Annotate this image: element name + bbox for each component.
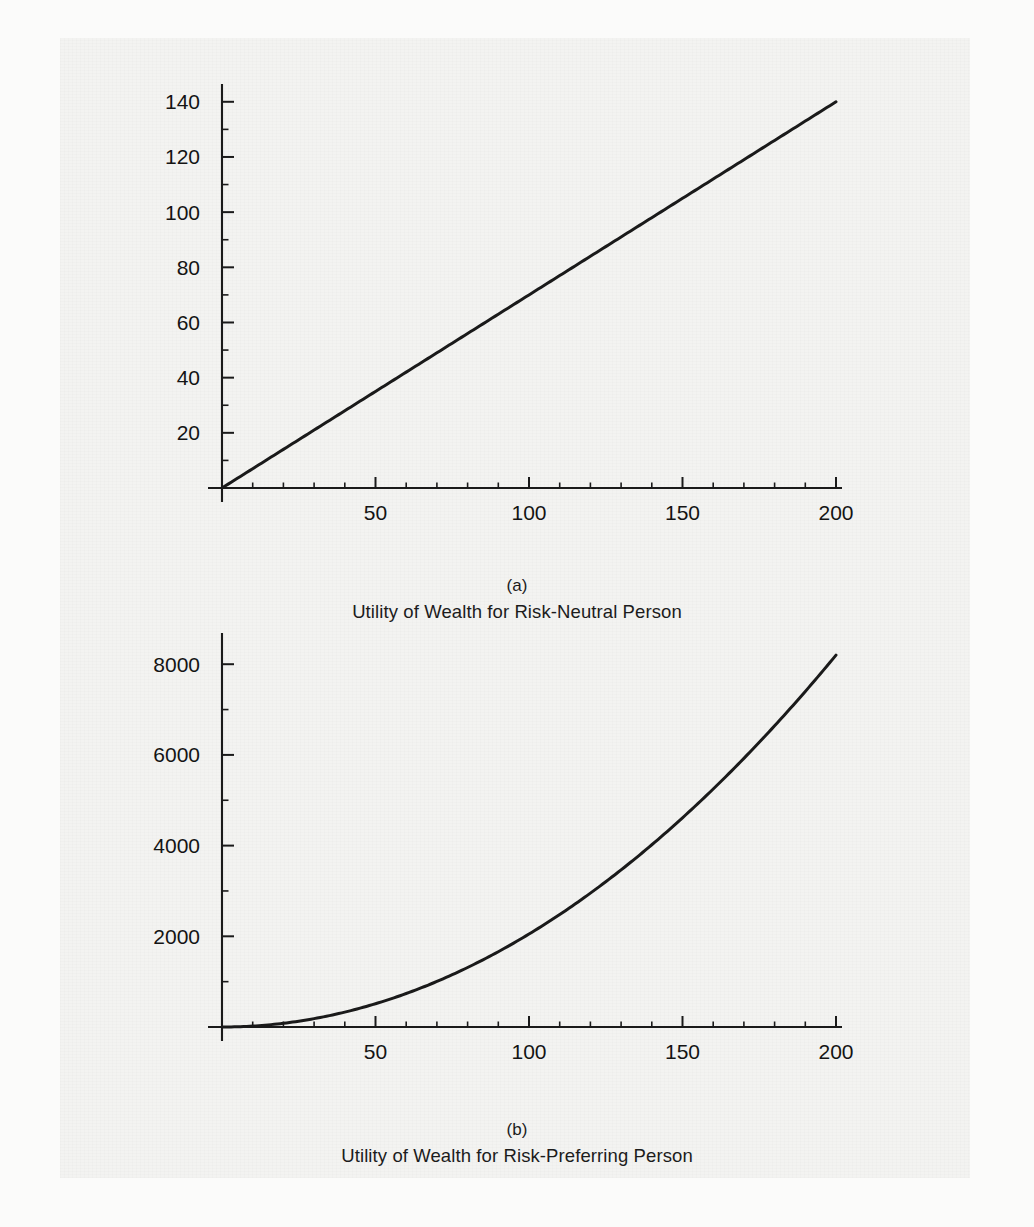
figure-panel-a: 5010015020020406080100120140 (a) Utility… — [0, 0, 1034, 625]
y-axis-tick-label: 6000 — [153, 743, 200, 766]
y-axis-tick-label: 140 — [165, 90, 200, 113]
figure-caption-b: (b) Utility of Wealth for Risk-Preferrin… — [0, 1118, 1034, 1169]
x-axis-tick-label: 50 — [364, 1040, 387, 1063]
x-axis-tick-label: 100 — [511, 1040, 546, 1063]
y-axis-tick-label: 100 — [165, 201, 200, 224]
figure-panel-b: 501001502002000400060008000 (b) Utility … — [0, 600, 1034, 1169]
y-axis-tick-label: 120 — [165, 145, 200, 168]
x-axis-tick-label: 50 — [364, 501, 387, 524]
panel-letter-b: (b) — [0, 1118, 1034, 1143]
x-axis-tick-label: 200 — [818, 501, 853, 524]
y-axis-tick-label: 40 — [177, 366, 200, 389]
y-axis-tick-label: 8000 — [153, 653, 200, 676]
data-series-line — [222, 655, 836, 1027]
x-axis-tick-label: 200 — [818, 1040, 853, 1063]
panel-letter-a: (a) — [0, 574, 1034, 599]
data-series-line — [222, 102, 836, 488]
x-axis-tick-label: 150 — [665, 1040, 700, 1063]
x-axis-tick-label: 100 — [511, 501, 546, 524]
y-axis-tick-label: 80 — [177, 256, 200, 279]
y-axis-tick-label: 4000 — [153, 834, 200, 857]
y-axis-tick-label: 2000 — [153, 925, 200, 948]
x-axis-tick-label: 150 — [665, 501, 700, 524]
caption-title-b: Utility of Wealth for Risk-Preferring Pe… — [0, 1143, 1034, 1170]
y-axis-tick-label: 60 — [177, 311, 200, 334]
chart-risk-preferring: 501001502002000400060008000 — [0, 600, 1034, 1070]
y-axis-tick-label: 20 — [177, 421, 200, 444]
chart-risk-neutral: 5010015020020406080100120140 — [0, 0, 1034, 530]
